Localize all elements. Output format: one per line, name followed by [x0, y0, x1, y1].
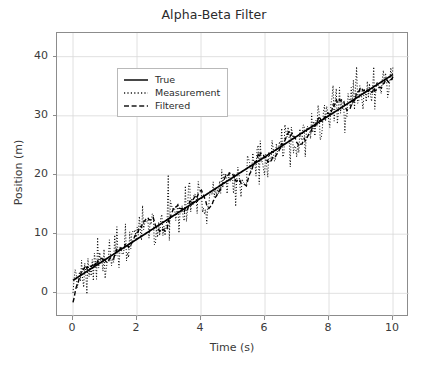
x-tick-label: 0	[57, 321, 87, 334]
legend-label-measurement: Measurement	[155, 87, 220, 99]
y-tick-label: 10	[14, 226, 48, 239]
legend-item-measurement: Measurement	[123, 86, 220, 99]
legend-swatch-solid-icon	[123, 74, 149, 86]
legend-item-true: True	[123, 73, 220, 86]
y-tick-mark	[53, 292, 57, 293]
x-tick-mark	[392, 316, 393, 320]
legend-label-true: True	[155, 74, 175, 86]
x-tick-mark	[328, 316, 329, 320]
figure-canvas: Alpha-Beta Filter Position (m) True Meas…	[0, 0, 428, 368]
x-tick-mark	[200, 316, 201, 320]
y-tick-label: 20	[14, 167, 48, 180]
x-tick-mark	[264, 316, 265, 320]
y-tick-mark	[53, 174, 57, 175]
y-tick-label: 30	[14, 108, 48, 121]
y-tick-mark	[53, 115, 57, 116]
legend-swatch-dashed-icon	[123, 100, 149, 112]
y-tick-label: 40	[14, 49, 48, 62]
plot-svg	[57, 33, 409, 317]
chart-title: Alpha-Beta Filter	[0, 7, 428, 22]
x-tick-mark	[72, 316, 73, 320]
x-tick-label: 4	[185, 321, 215, 334]
plot-area: True Measurement Filtered	[56, 32, 408, 316]
y-tick-mark	[53, 233, 57, 234]
legend-label-filtered: Filtered	[155, 100, 190, 112]
x-tick-label: 6	[249, 321, 279, 334]
x-tick-mark	[136, 316, 137, 320]
x-axis-label: Time (s)	[56, 341, 408, 354]
legend-swatch-dotted-icon	[123, 87, 149, 99]
y-tick-mark	[53, 56, 57, 57]
x-tick-label: 10	[377, 321, 407, 334]
legend-item-filtered: Filtered	[123, 99, 220, 112]
x-tick-label: 2	[121, 321, 151, 334]
chart-legend[interactable]: True Measurement Filtered	[117, 68, 228, 117]
x-tick-label: 8	[313, 321, 343, 334]
y-tick-label: 0	[14, 285, 48, 298]
